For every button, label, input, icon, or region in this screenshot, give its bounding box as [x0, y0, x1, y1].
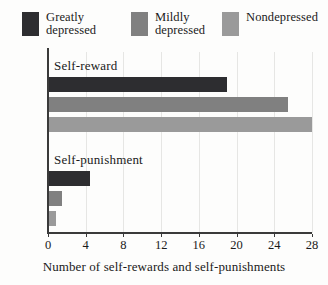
bar-self-punishment-nondepressed [48, 211, 56, 226]
legend-item-mildly-depressed: Mildly depressed [131, 11, 205, 36]
tick-mark [199, 234, 200, 237]
bar-self-punishment-greatly-depressed [48, 171, 90, 186]
plot-area: Self-reward Self-punishment [48, 52, 312, 233]
legend-swatch-icon [22, 12, 39, 36]
group-label-self-punishment: Self-punishment [54, 152, 143, 168]
legend-label: Mildly depressed [155, 11, 205, 36]
legend-swatch-icon [222, 12, 239, 36]
tick-label: 8 [109, 238, 137, 253]
tick-label: 16 [185, 238, 213, 253]
tick-label: 0 [34, 238, 62, 253]
bar-self-reward-greatly-depressed [48, 77, 227, 92]
y-axis-line [47, 48, 49, 234]
group-label-self-reward: Self-reward [54, 58, 118, 74]
tick-mark [86, 234, 87, 237]
legend-label: Nondepressed [246, 11, 318, 24]
tick-label: 4 [72, 238, 100, 253]
legend-label: Greatly depressed [46, 11, 96, 36]
tick-label: 20 [223, 238, 251, 253]
legend-item-greatly-depressed: Greatly depressed [22, 11, 96, 36]
chart-legend: Greatly depressed Mildly depressed Nonde… [0, 0, 328, 52]
tick-label: 24 [260, 238, 288, 253]
x-axis-ticks: 0481216202428 [48, 234, 312, 254]
tick-label: 12 [147, 238, 175, 253]
tick-mark [161, 234, 162, 237]
bar-self-reward-nondepressed [48, 117, 312, 132]
tick-mark [274, 234, 275, 237]
tick-mark [48, 234, 49, 237]
bar-chart: Greatly depressed Mildly depressed Nonde… [0, 0, 328, 285]
x-axis-title: Number of self-rewards and self-punishme… [0, 259, 328, 275]
gridline [237, 52, 238, 233]
tick-label: 28 [298, 238, 326, 253]
legend-swatch-icon [131, 12, 148, 36]
gridline [274, 52, 275, 233]
tick-mark [237, 234, 238, 237]
bar-self-punishment-mildly-depressed [48, 191, 62, 206]
bar-self-reward-mildly-depressed [48, 97, 288, 112]
tick-mark [123, 234, 124, 237]
legend-item-nondepressed: Nondepressed [222, 11, 318, 36]
gridline [312, 52, 313, 233]
tick-mark [312, 234, 313, 237]
